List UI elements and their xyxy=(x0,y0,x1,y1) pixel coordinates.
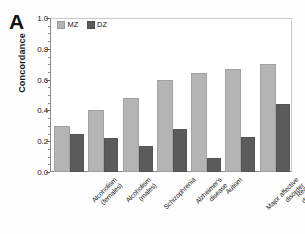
x-category-label: Alcoholism(females) xyxy=(90,176,123,209)
x-category-label: Schizophrenia xyxy=(162,176,197,211)
x-category-label: Alzheimer'sdisease xyxy=(194,176,229,211)
x-category-label: Alcoholism(males) xyxy=(125,176,158,209)
x-category-label: Autism xyxy=(224,176,244,196)
figure-panel: A Concordance 1.00.80.60.40.20.0 MZ DZ A… xyxy=(0,0,305,234)
x-axis-category-labels: Alcoholism(females)Alcoholism(males)Schi… xyxy=(0,0,305,234)
